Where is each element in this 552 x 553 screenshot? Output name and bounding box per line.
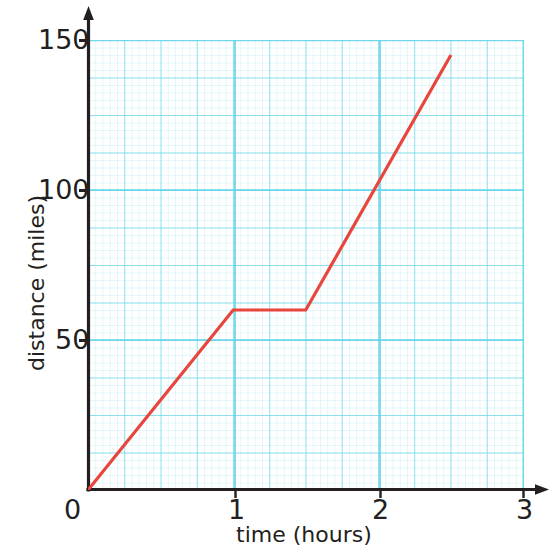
grid-layer [88, 40, 524, 490]
x-axis-arrow [535, 484, 549, 495]
x-tick-label-2: 2 [372, 496, 389, 523]
x-axis-title: time (hours) [236, 524, 372, 546]
distance-time-chart: 150 100 50 0 1 2 3 distance (miles) time… [0, 0, 552, 553]
y-axis-title: distance (miles) [26, 195, 48, 371]
chart-canvas [0, 0, 552, 553]
y-tick-label-150: 150 [38, 26, 90, 53]
x-tick-label-1: 1 [228, 496, 245, 523]
y-tick-label-50: 50 [55, 326, 89, 353]
y-axis-arrow [83, 6, 94, 20]
x-tick-label-0: 0 [64, 496, 81, 523]
x-tick-label-3: 3 [516, 496, 533, 523]
